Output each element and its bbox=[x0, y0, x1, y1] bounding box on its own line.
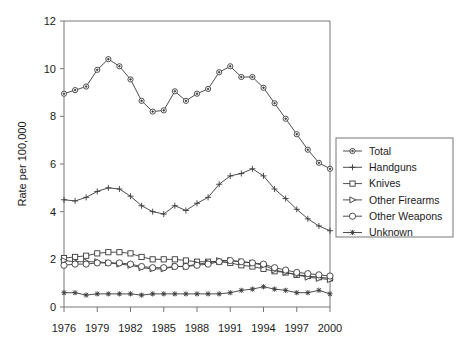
data-point-marker bbox=[172, 257, 177, 262]
x-tick-label: 1982 bbox=[118, 322, 142, 334]
x-tick-label: 1985 bbox=[152, 322, 176, 334]
x-tick-label: 1991 bbox=[218, 322, 242, 334]
legend-marker-icon bbox=[349, 213, 355, 219]
data-point-marker bbox=[283, 288, 288, 293]
data-point-marker bbox=[172, 263, 178, 269]
data-point-marker bbox=[63, 93, 65, 95]
data-point-marker bbox=[305, 290, 310, 295]
data-point-marker bbox=[139, 292, 144, 297]
chart-legend: TotalHandgunsKnivesOther FirearmsOther W… bbox=[336, 138, 453, 238]
data-point-marker bbox=[285, 118, 287, 120]
data-point-marker bbox=[194, 291, 199, 296]
data-point-marker bbox=[252, 76, 254, 78]
data-point-marker bbox=[185, 100, 187, 102]
legend-marker-icon bbox=[352, 150, 354, 152]
data-point-marker bbox=[271, 265, 277, 271]
data-point-marker bbox=[152, 111, 154, 113]
data-point-marker bbox=[84, 292, 89, 297]
data-point-marker bbox=[108, 58, 110, 60]
data-point-marker bbox=[94, 260, 100, 266]
data-point-marker bbox=[183, 291, 188, 296]
data-point-marker bbox=[117, 291, 122, 296]
x-tick-label: 1976 bbox=[52, 322, 76, 334]
data-point-marker bbox=[117, 250, 122, 255]
data-point-marker bbox=[85, 86, 87, 88]
legend-marker-icon bbox=[350, 181, 355, 186]
data-point-marker bbox=[274, 102, 276, 104]
data-point-marker bbox=[72, 290, 77, 295]
data-point-marker bbox=[327, 273, 333, 279]
data-point-marker bbox=[150, 257, 155, 262]
data-point-marker bbox=[95, 291, 100, 296]
data-point-marker bbox=[249, 260, 255, 266]
data-point-marker bbox=[119, 65, 121, 67]
x-tick-label: 1994 bbox=[251, 322, 275, 334]
data-point-marker bbox=[163, 110, 165, 112]
data-point-marker bbox=[229, 65, 231, 67]
data-point-marker bbox=[116, 260, 122, 266]
data-point-marker bbox=[105, 260, 111, 266]
data-point-marker bbox=[138, 263, 144, 269]
data-point-marker bbox=[241, 76, 243, 78]
data-point-marker bbox=[294, 269, 300, 275]
data-point-marker bbox=[296, 133, 298, 135]
data-point-marker bbox=[239, 288, 244, 293]
data-point-marker bbox=[161, 291, 166, 296]
y-tick-label: 2 bbox=[50, 253, 56, 265]
legend-item-label: Total bbox=[369, 145, 391, 157]
x-tick-label: 1997 bbox=[285, 322, 309, 334]
data-point-marker bbox=[72, 261, 78, 267]
y-tick-label: 4 bbox=[50, 206, 56, 218]
y-tick-label: 0 bbox=[50, 301, 56, 313]
data-point-marker bbox=[61, 262, 67, 268]
data-point-marker bbox=[130, 79, 132, 81]
data-point-marker bbox=[283, 267, 289, 273]
data-point-marker bbox=[183, 263, 189, 269]
data-point-marker bbox=[294, 290, 299, 295]
data-point-marker bbox=[183, 258, 188, 263]
data-point-marker bbox=[263, 87, 265, 89]
data-point-marker bbox=[207, 88, 209, 90]
data-point-marker bbox=[61, 290, 66, 295]
legend-item-label: Other Firearms bbox=[369, 194, 440, 206]
data-point-marker bbox=[196, 93, 198, 95]
legend-item-label: Unknown bbox=[369, 226, 413, 238]
data-point-marker bbox=[161, 257, 166, 262]
data-point-marker bbox=[329, 168, 331, 170]
data-point-marker bbox=[96, 69, 98, 71]
y-tick-label: 8 bbox=[50, 110, 56, 122]
data-point-marker bbox=[316, 288, 321, 293]
y-axis-title: Rate per 100,000 bbox=[16, 121, 28, 206]
data-point-marker bbox=[272, 287, 277, 292]
x-tick-label: 1979 bbox=[85, 322, 109, 334]
y-tick-label: 10 bbox=[44, 63, 56, 75]
y-tick-label: 6 bbox=[50, 158, 56, 170]
data-point-marker bbox=[316, 272, 322, 278]
data-point-marker bbox=[194, 262, 200, 268]
data-point-marker bbox=[205, 261, 211, 267]
data-point-marker bbox=[127, 261, 133, 267]
data-point-marker bbox=[83, 261, 89, 267]
legend-marker-icon bbox=[350, 230, 355, 235]
data-point-marker bbox=[238, 259, 244, 265]
data-point-marker bbox=[218, 71, 220, 73]
line-chart: 024681012 197619791982198519881991199419… bbox=[0, 0, 460, 352]
data-point-marker bbox=[250, 287, 255, 292]
data-point-marker bbox=[128, 291, 133, 296]
data-point-marker bbox=[174, 91, 176, 93]
data-point-marker bbox=[216, 259, 222, 265]
data-point-marker bbox=[150, 291, 155, 296]
data-point-marker bbox=[84, 253, 89, 258]
data-point-marker bbox=[305, 271, 311, 277]
data-point-marker bbox=[260, 261, 266, 267]
data-point-marker bbox=[74, 89, 76, 91]
data-point-marker bbox=[318, 162, 320, 164]
data-point-marker bbox=[139, 254, 144, 259]
data-point-marker bbox=[228, 290, 233, 295]
legend-item-label: Other Weapons bbox=[369, 210, 442, 222]
data-point-marker bbox=[327, 291, 332, 296]
data-point-marker bbox=[307, 149, 309, 151]
data-point-marker bbox=[227, 257, 233, 263]
data-point-marker bbox=[95, 251, 100, 256]
x-tick-label: 1988 bbox=[185, 322, 209, 334]
